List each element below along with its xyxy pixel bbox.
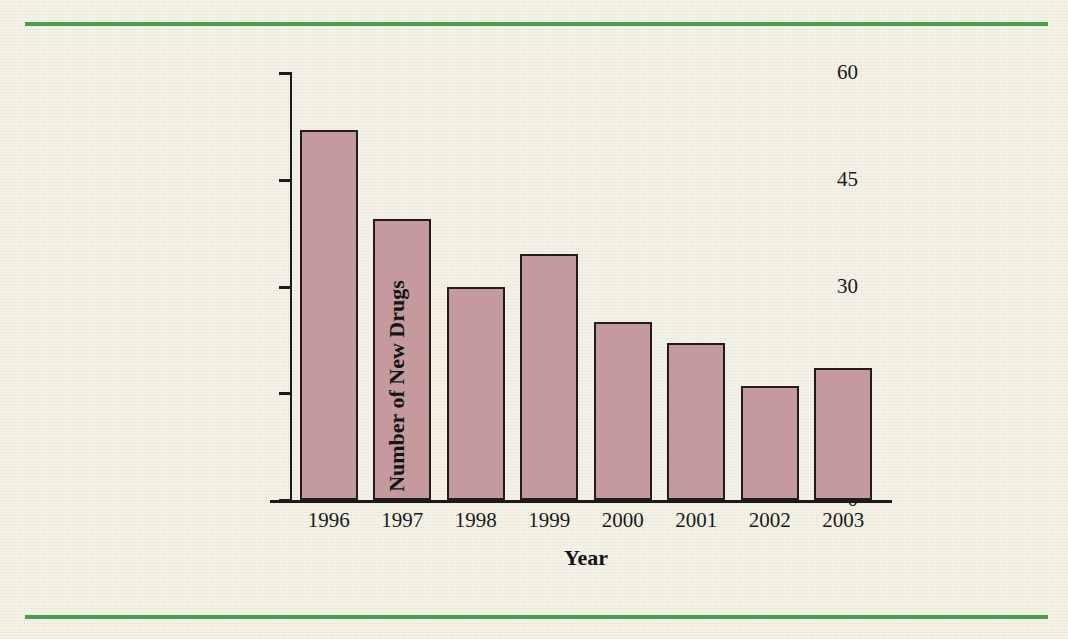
bar-2000: [594, 322, 652, 500]
x-axis-tick-label: 2000: [583, 510, 663, 531]
bar-1996: [300, 130, 358, 500]
x-axis-title: Year: [292, 545, 880, 571]
y-axis-tick: [279, 499, 292, 502]
x-axis-tick-label: 2001: [656, 510, 736, 531]
y-axis-tick: [279, 392, 292, 395]
y-axis-title: Number of New Drugs: [384, 176, 410, 596]
x-axis-line: [270, 500, 892, 503]
bar-2002: [741, 386, 799, 500]
x-axis-tick-label: 1999: [509, 510, 589, 531]
y-axis-tick: [279, 286, 292, 289]
y-axis-tick: [279, 179, 292, 182]
y-axis-tick: [279, 72, 292, 75]
bar-2001: [667, 343, 725, 500]
x-axis-tick-label: 1998: [436, 510, 516, 531]
plot-area: 015304560 199619971998199920002001200220…: [292, 73, 880, 500]
bottom-divider-rule: [25, 615, 1048, 619]
bar-1999: [520, 254, 578, 500]
x-axis-tick-label: 1996: [289, 510, 369, 531]
x-axis-tick-label: 2002: [730, 510, 810, 531]
chart-figure: 015304560 199619971998199920002001200220…: [0, 0, 1068, 639]
top-divider-rule: [25, 22, 1048, 26]
bar-1998: [447, 287, 505, 501]
bar-2003: [814, 368, 872, 500]
x-axis-tick-label: 2003: [803, 510, 883, 531]
bar-series: [292, 73, 880, 500]
